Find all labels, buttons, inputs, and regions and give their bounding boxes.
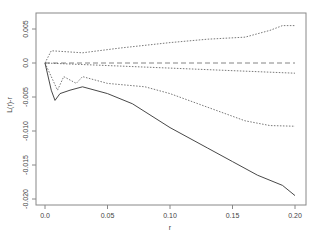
series-lower-envelope [45,63,295,126]
y-tick-label: 0.0 [22,58,29,68]
plot-frame [36,13,306,205]
series-mean [45,63,295,73]
x-tick-label: 0.05 [101,212,115,219]
x-tick-label: 0.15 [226,212,240,219]
x-tick-label: 0.0 [40,212,50,219]
y-axis-label: L(r)-r [6,97,14,113]
y-tick-label: 0.005 [22,20,29,38]
x-axis-label: r [169,224,172,231]
y-tick-label: -0.005 [22,87,29,107]
x-tick-label: 0.10 [163,212,177,219]
series-observed [45,63,295,196]
series-upper-envelope [45,26,295,63]
x-tick-label: 0.20 [288,212,302,219]
y-tick-label: -0.010 [22,121,29,141]
line-chart: 0.00.050.100.150.200.0050.0-0.005-0.010-… [0,0,323,243]
chart-container: 0.00.050.100.150.200.0050.0-0.005-0.010-… [0,0,323,243]
y-tick-label: -0.015 [22,155,29,175]
y-tick-label: -0.020 [22,189,29,209]
